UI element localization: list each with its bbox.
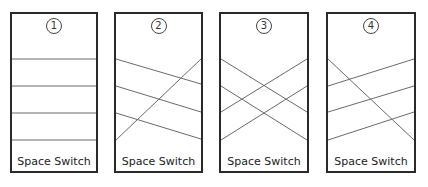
connection-lines xyxy=(328,14,414,171)
panel-label: Space Switch xyxy=(221,155,307,168)
space-switch-panel-4: 4 Space Switch xyxy=(326,12,416,173)
space-switch-panel-1: 1 Space Switch xyxy=(10,12,98,173)
connection-line xyxy=(328,112,414,140)
connection-lines xyxy=(12,14,96,171)
panel-label: Space Switch xyxy=(116,155,201,168)
panel-label: Space Switch xyxy=(328,155,414,168)
connection-line xyxy=(116,113,201,139)
space-switch-panel-3: 3 Space Switch xyxy=(219,12,309,173)
connection-line xyxy=(328,59,414,86)
connection-line xyxy=(328,86,414,112)
connection-lines xyxy=(116,14,201,171)
connection-lines xyxy=(221,14,307,171)
panel-label: Space Switch xyxy=(12,155,96,168)
space-switch-panel-2: 2 Space Switch xyxy=(114,12,203,173)
